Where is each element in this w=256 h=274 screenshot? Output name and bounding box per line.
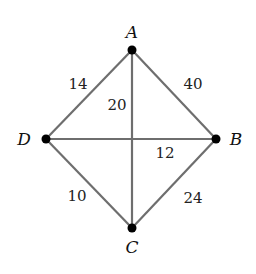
edge-weight-AB: 40 — [183, 75, 202, 93]
node-label-B: B — [229, 129, 243, 149]
node-label-A: A — [124, 22, 138, 42]
edge-weight-AD: 14 — [68, 75, 87, 93]
edge-weight-DC: 10 — [67, 187, 86, 205]
edge-weight-AC: 20 — [107, 96, 126, 114]
edge-AD — [46, 50, 132, 139]
edge-AB — [132, 50, 216, 139]
weighted-graph-diagram: 144020121024ABCD — [0, 0, 256, 274]
node-D — [42, 135, 51, 144]
node-C — [128, 224, 137, 233]
edge-weight-DB: 12 — [155, 144, 174, 162]
node-label-C: C — [125, 237, 138, 257]
edge-DC — [46, 139, 132, 228]
graph-svg: 144020121024ABCD — [0, 0, 256, 274]
node-A — [128, 46, 137, 55]
edge-weight-BC: 24 — [183, 189, 202, 207]
node-B — [212, 135, 221, 144]
node-label-D: D — [16, 129, 31, 149]
